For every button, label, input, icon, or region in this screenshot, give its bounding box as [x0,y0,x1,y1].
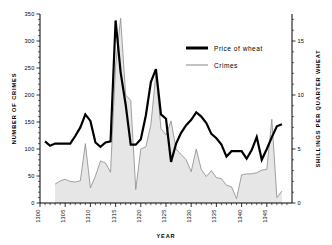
right-tick-label: 15 [298,38,305,44]
left-tick-label: 50 [28,173,35,179]
right-tick-label: 0 [298,200,301,206]
x-tick-label: 1310 [85,210,91,223]
left-tick-label: 200 [25,92,35,98]
x-tick-label: 1345 [262,210,268,223]
legend-label-crimes: Crimes [214,62,238,69]
x-tick-label: 1330 [186,210,192,223]
legend-label-price-of-wheat: Price of wheat [214,45,263,52]
x-tick-label: 1335 [211,210,217,223]
x-tick-label: 1315 [111,210,117,223]
left-tick-label: 150 [25,119,35,125]
right-tick-label: 10 [298,92,305,98]
x-tick-label: 1305 [60,210,66,223]
left-tick-label: 350 [25,11,35,17]
chart-canvas: 0501001502002503003500510151300130513101… [0,0,332,245]
left-tick-label: 300 [25,38,35,44]
right-axis-title: SHILLINGS PER QUARTER WHEAT [315,49,321,167]
x-tick-label: 1320 [136,210,142,223]
left-tick-label: 250 [25,65,35,71]
x-tick-label: 1300 [35,210,41,223]
right-tick-label: 5 [298,146,301,152]
left-tick-label: 0 [31,200,34,206]
bottom-axis-title: YEAR [156,233,175,239]
x-tick-label: 1340 [237,210,243,223]
left-axis-title: NUMBER OF CRIMES [11,73,17,145]
left-tick-label: 100 [25,146,35,152]
wheat-price-crimes-chart: 0501001502002503003500510151300130513101… [0,0,332,245]
x-tick-label: 1325 [161,210,167,223]
